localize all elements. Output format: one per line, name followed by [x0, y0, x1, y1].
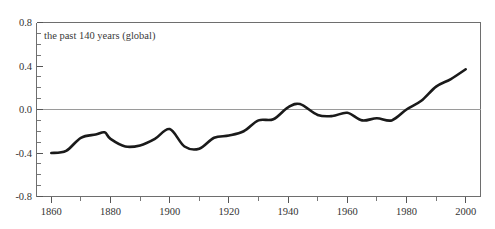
- temperature-anomaly-figure: Temperature variations (relative to 1961…: [0, 0, 495, 229]
- x-tick-label: 1920: [218, 206, 239, 217]
- x-tick-label: 1980: [396, 206, 417, 217]
- y-tick-label: 0.0: [19, 104, 32, 115]
- y-tick-label: -0.8: [15, 191, 32, 202]
- x-tick-label: 1860: [41, 206, 62, 217]
- x-tick-label: 1960: [337, 206, 358, 217]
- y-tick-label: 0.4: [19, 61, 33, 72]
- y-tick-label: 0.8: [19, 17, 32, 28]
- line-chart-svg: 0.8 0.4 0.0 -0.4 -0.8 1860 1880 1900 192…: [0, 0, 495, 229]
- x-tick-label: 1940: [278, 206, 299, 217]
- x-tick-label: 1880: [100, 206, 121, 217]
- y-tick-label: -0.4: [15, 148, 32, 159]
- x-tick-label: 1900: [159, 206, 180, 217]
- x-tick-label: 2000: [455, 206, 476, 217]
- chart-annotation: the past 140 years (global): [44, 30, 156, 42]
